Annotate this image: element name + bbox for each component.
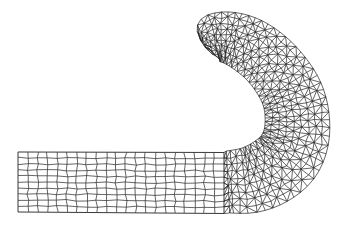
mesh-svg [0,0,342,231]
quad-mesh-region [18,152,224,214]
mesh-diagram [0,0,342,231]
